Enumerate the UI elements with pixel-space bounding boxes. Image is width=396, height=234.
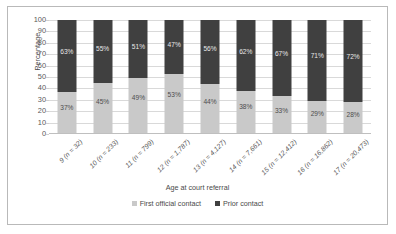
x-axis-tick-labels: 9 (n = 32)10 (n = 233)11 (n = 799)12 (n … [49, 135, 371, 183]
bar-segment-label: 72% [344, 54, 363, 61]
bar-segment-label: 67% [272, 51, 291, 58]
bar-column[interactable]: 72%28% [335, 20, 371, 134]
bar-segment-label: 56% [200, 46, 219, 53]
bar-column[interactable]: 62%38% [228, 20, 264, 134]
x-axis-tick-label: 11 (n = 799) [124, 138, 155, 169]
y-axis-tick-mark [46, 20, 49, 21]
y-axis-tick-label: 60 [17, 62, 46, 69]
y-axis-tick-mark [46, 54, 49, 55]
bar-column[interactable]: 55%45% [85, 20, 121, 134]
plot-area: 63%37%55%45%51%49%47%53%56%44%62%38%67%3… [49, 20, 371, 134]
y-axis-tick-label: 40 [17, 85, 46, 92]
bar-stack[interactable]: 63%37% [57, 20, 76, 134]
bar-segment-label: 62% [236, 49, 255, 56]
bar-segment-label: 51% [129, 44, 148, 51]
bar-segment-prior-contact[interactable]: 51% [129, 20, 148, 78]
bar-stack[interactable]: 56%44% [200, 20, 219, 134]
bar-segment-label: 38% [236, 104, 255, 111]
bar-column[interactable]: 47%53% [156, 20, 192, 134]
bar-segment-label: 55% [93, 46, 112, 53]
y-axis-tick-mark [46, 66, 49, 67]
bar-segment-label: 49% [129, 95, 148, 102]
bar-segment-first-official-contact[interactable]: 28% [344, 102, 363, 134]
bar-stack[interactable]: 47%53% [165, 20, 184, 134]
bar-segment-first-official-contact[interactable]: 29% [308, 101, 327, 134]
bar-column[interactable]: 51%49% [121, 20, 157, 134]
y-axis-tick-mark [46, 31, 49, 32]
y-axis-tick-label: 80 [17, 39, 46, 46]
bar-segment-prior-contact[interactable]: 47% [165, 20, 184, 74]
bar-segment-prior-contact[interactable]: 63% [57, 20, 76, 92]
legend-item[interactable]: First official contact [132, 199, 201, 208]
bar-stack[interactable]: 72%28% [344, 20, 363, 134]
y-axis-tick-label: 20 [17, 107, 46, 114]
bar-segment-label: 45% [93, 99, 112, 106]
x-axis-tick-label: 17 (n = 20,473) [332, 138, 370, 176]
bar-column[interactable]: 71%29% [299, 20, 335, 134]
chart-legend: First official contactPrior contact [8, 199, 387, 208]
bar-segment-label: 71% [308, 53, 327, 60]
x-axis-tick-label: 15 (n = 12,412) [260, 138, 298, 176]
bar-segment-label: 44% [200, 99, 219, 106]
x-axis-tick-label: 9 (n = 32) [58, 138, 84, 164]
chart-figure-frame: Percentage 1009080706050403020100 63%37%… [7, 6, 388, 225]
x-axis-line [49, 133, 371, 134]
y-axis-tick-mark [46, 77, 49, 78]
x-axis-tick-label: 14 (n = 7,661) [227, 138, 262, 173]
legend-label: Prior contact [223, 199, 263, 208]
x-axis-tick-label: 16 (n = 16,862) [296, 138, 334, 176]
x-axis-tick-label: 12 (n = 1,787) [156, 138, 191, 173]
bar-column[interactable]: 63%37% [49, 20, 85, 134]
bar-column[interactable]: 56%44% [192, 20, 228, 134]
bar-segment-first-official-contact[interactable]: 38% [236, 91, 255, 134]
y-axis-tick-label: 90 [17, 28, 46, 35]
bar-segment-label: 33% [272, 108, 291, 115]
bar-segment-label: 28% [344, 112, 363, 119]
y-axis-tick-label: 70 [17, 50, 46, 57]
bar-segment-prior-contact[interactable]: 62% [236, 20, 255, 91]
bar-column[interactable]: 67%33% [264, 20, 300, 134]
y-axis-tick-label: 100 [17, 16, 46, 23]
bar-segment-label: 53% [165, 92, 184, 99]
bar-stack[interactable]: 55%45% [93, 20, 112, 134]
y-axis-tick-label: 0 [17, 130, 46, 137]
y-axis-tick-mark [46, 123, 49, 124]
bar-segment-label: 37% [57, 105, 76, 112]
x-axis-title: Age at court referral [8, 183, 387, 192]
legend-label: First official contact [140, 199, 201, 208]
bar-stack[interactable]: 62%38% [236, 20, 255, 134]
y-axis-tick-mark [46, 43, 49, 44]
bar-segment-first-official-contact[interactable]: 37% [57, 92, 76, 134]
y-axis-tick-mark [46, 100, 49, 101]
y-axis-tick-label: 30 [17, 96, 46, 103]
y-axis-tick-labels: 1009080706050403020100 [17, 20, 46, 134]
y-axis-tick-mark [46, 88, 49, 89]
x-axis-tick-label: 10 (n = 233) [88, 138, 119, 169]
bar-segment-first-official-contact[interactable]: 44% [200, 84, 219, 134]
bar-segment-first-official-contact[interactable]: 33% [272, 96, 291, 134]
y-axis-tick-label: 10 [17, 119, 46, 126]
bar-segment-prior-contact[interactable]: 55% [93, 20, 112, 83]
bar-segment-prior-contact[interactable]: 71% [308, 20, 327, 101]
bar-segment-prior-contact[interactable]: 72% [344, 20, 363, 102]
legend-item[interactable]: Prior contact [215, 199, 263, 208]
bar-segment-label: 63% [57, 49, 76, 56]
bar-stack[interactable]: 71%29% [308, 20, 327, 134]
x-axis-tick-label: 13 (n = 4,127) [191, 138, 226, 173]
bar-segment-prior-contact[interactable]: 56% [200, 20, 219, 84]
bar-segment-first-official-contact[interactable]: 53% [165, 74, 184, 134]
bar-segment-prior-contact[interactable]: 67% [272, 20, 291, 96]
legend-swatch-icon [215, 201, 220, 206]
y-axis-tick-mark [46, 111, 49, 112]
bar-segment-first-official-contact[interactable]: 49% [129, 78, 148, 134]
bar-stack[interactable]: 67%33% [272, 20, 291, 134]
bar-segment-label: 47% [165, 42, 184, 49]
bar-stack[interactable]: 51%49% [129, 20, 148, 134]
bar-segment-label: 29% [308, 111, 327, 118]
legend-swatch-icon [132, 201, 137, 206]
bar-segment-first-official-contact[interactable]: 45% [93, 83, 112, 134]
y-axis-tick-mark [46, 134, 49, 135]
y-axis-tick-label: 50 [17, 73, 46, 80]
